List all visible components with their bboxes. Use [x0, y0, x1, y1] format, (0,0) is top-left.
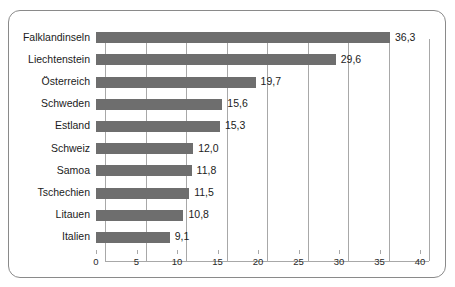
bar[interactable]	[96, 188, 189, 199]
category-label: Tschechien	[0, 187, 90, 198]
x-tick-mark-15	[218, 250, 219, 254]
bar[interactable]	[96, 210, 183, 221]
value-label: 11,5	[194, 187, 214, 198]
bar[interactable]	[96, 232, 170, 243]
x-tick-mark-40	[420, 250, 421, 254]
x-tick-label: 10	[162, 256, 192, 267]
chart-overlay: 0510152025303540Falklandinseln36,3Liecht…	[0, 0, 455, 287]
x-tick-label: 5	[122, 256, 152, 267]
value-label: 36,3	[395, 32, 415, 43]
bar[interactable]	[96, 77, 256, 88]
x-tick-mark-10	[177, 250, 178, 254]
value-label: 19,7	[261, 76, 281, 87]
x-tick-label: 0	[81, 256, 111, 267]
x-tick-mark-5	[137, 250, 138, 254]
bar[interactable]	[96, 54, 336, 65]
category-label: Österreich	[0, 76, 90, 87]
value-label: 9,1	[175, 231, 190, 242]
value-label: 15,3	[225, 120, 245, 131]
x-tick-label: 20	[243, 256, 273, 267]
bar[interactable]	[96, 121, 220, 132]
category-label: Falklandinseln	[0, 32, 90, 43]
category-label: Italien	[0, 231, 90, 242]
x-tick-mark-30	[339, 250, 340, 254]
x-tick-mark-0	[96, 250, 97, 254]
value-label: 29,6	[341, 54, 361, 65]
bar[interactable]	[96, 32, 390, 43]
x-tick-label: 40	[405, 256, 435, 267]
chart-screenshot: 0510152025303540Falklandinseln36,3Liecht…	[0, 0, 455, 287]
category-label: Litauen	[0, 209, 90, 220]
value-label: 15,6	[227, 98, 247, 109]
x-tick-mark-25	[299, 250, 300, 254]
x-tick-label: 30	[324, 256, 354, 267]
category-label: Samoa	[0, 165, 90, 176]
x-tick-mark-20	[258, 250, 259, 254]
bar[interactable]	[96, 143, 193, 154]
x-tick-label: 15	[203, 256, 233, 267]
value-label: 10,8	[188, 209, 208, 220]
value-label: 11,8	[197, 165, 217, 176]
category-label: Schweden	[0, 98, 90, 109]
x-tick-label: 25	[284, 256, 314, 267]
bar[interactable]	[96, 99, 222, 110]
x-tick-mark-35	[380, 250, 381, 254]
bar[interactable]	[96, 165, 192, 176]
value-label: 12,0	[198, 143, 218, 154]
category-label: Schweiz	[0, 143, 90, 154]
category-label: Estland	[0, 120, 90, 131]
x-tick-label: 35	[365, 256, 395, 267]
category-label: Liechtenstein	[0, 54, 90, 65]
